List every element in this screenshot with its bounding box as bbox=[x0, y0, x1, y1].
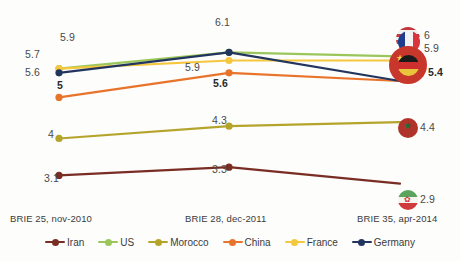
chart-legend: IranUSMoroccoChinaFranceGermany bbox=[0, 234, 460, 250]
legend-item-germany[interactable]: Germany bbox=[352, 237, 415, 248]
chart-caption bbox=[0, 251, 460, 262]
data-value-label: 5.7 bbox=[25, 48, 40, 60]
legend-item-china[interactable]: China bbox=[223, 237, 271, 248]
x-axis-tick-label: BRIE 28, dec-2011 bbox=[185, 213, 266, 224]
data-point bbox=[55, 69, 62, 76]
series-morocco bbox=[55, 122, 400, 142]
data-value-label: 5.9 bbox=[424, 42, 439, 54]
data-point bbox=[55, 94, 62, 101]
data-value-label: 2.9 bbox=[420, 193, 435, 205]
series-line bbox=[59, 73, 400, 98]
data-point bbox=[225, 69, 232, 76]
flag-de-icon bbox=[398, 55, 419, 76]
flag-ma-icon: ★ bbox=[398, 118, 418, 138]
data-value-label: 4.4 bbox=[420, 121, 435, 133]
data-value-label: 4 bbox=[48, 128, 54, 140]
legend-label: Germany bbox=[374, 237, 415, 248]
series-line bbox=[59, 52, 400, 81]
data-value-label: 5.6 bbox=[25, 66, 40, 78]
data-point bbox=[55, 135, 62, 142]
legend-swatch-icon bbox=[285, 238, 305, 247]
legend-item-morocco[interactable]: Morocco bbox=[148, 237, 208, 248]
legend-label: Morocco bbox=[170, 237, 208, 248]
legend-label: US bbox=[120, 237, 134, 248]
data-point bbox=[225, 57, 232, 64]
series-iran bbox=[55, 164, 400, 184]
legend-swatch-icon bbox=[45, 238, 65, 247]
legend-swatch-icon bbox=[98, 238, 118, 247]
data-value-label: 5 bbox=[57, 79, 63, 91]
data-value-label: 5.6 bbox=[213, 77, 228, 89]
legend-label: France bbox=[307, 237, 338, 248]
legend-swatch-icon bbox=[223, 238, 243, 247]
data-value-label: 6.1 bbox=[215, 16, 230, 28]
data-value-label: 3.3 bbox=[212, 163, 227, 175]
legend-swatch-icon bbox=[352, 238, 372, 247]
data-point bbox=[225, 49, 232, 56]
data-value-label: 5.9 bbox=[185, 61, 200, 73]
data-value-label: 5.9 bbox=[60, 31, 75, 43]
legend-item-iran[interactable]: Iran bbox=[45, 237, 84, 248]
data-value-label: 5.4 bbox=[428, 66, 443, 78]
legend-item-france[interactable]: France bbox=[285, 237, 338, 248]
morocco-star-icon: ★ bbox=[403, 121, 412, 131]
legend-swatch-icon bbox=[148, 238, 168, 247]
legend-label: China bbox=[245, 237, 271, 248]
chart-container: 5.95.75.656.15.95.665.95.444.34.43.13.32… bbox=[0, 0, 460, 262]
data-value-label: 6 bbox=[424, 29, 430, 41]
iran-emblem-icon: ✿ bbox=[404, 196, 411, 204]
legend-item-us[interactable]: US bbox=[98, 237, 134, 248]
data-value-label: 4.3 bbox=[212, 114, 227, 126]
legend-label: Iran bbox=[67, 237, 84, 248]
x-axis-tick-label: BRIE 25, nov-2010 bbox=[10, 213, 92, 224]
x-axis-tick-label: BRIE 35, apr-2014 bbox=[357, 213, 437, 224]
flag-ir-icon: ✿ bbox=[398, 190, 418, 210]
data-value-label: 3.1 bbox=[44, 172, 59, 184]
